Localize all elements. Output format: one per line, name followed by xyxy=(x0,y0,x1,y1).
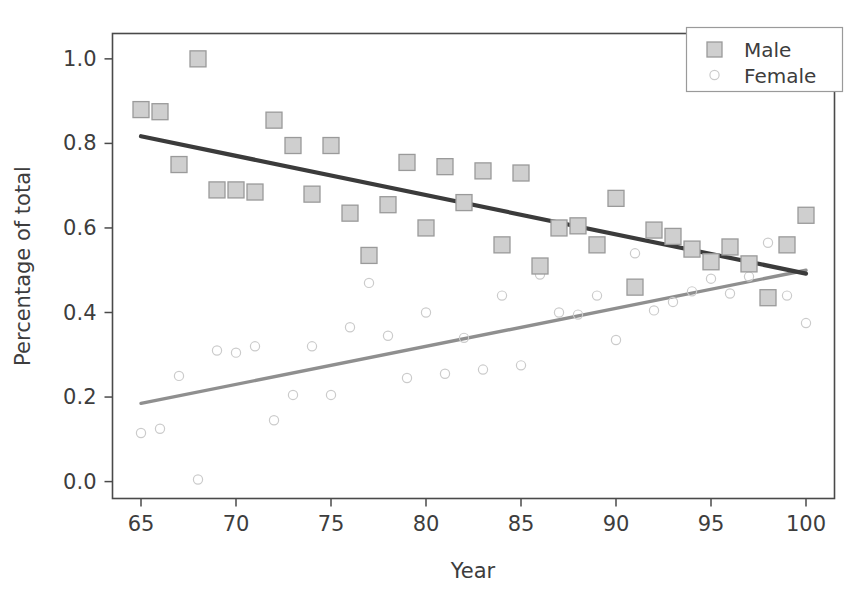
y-tick-label: 0.2 xyxy=(63,385,96,409)
scatter-plot: 65707580859095100 0.00.20.40.60.81.0 Yea… xyxy=(0,0,863,608)
data-point-female xyxy=(155,424,164,433)
data-point-female xyxy=(478,365,487,374)
data-point-female xyxy=(136,428,145,437)
data-point-male xyxy=(133,102,149,118)
data-point-female xyxy=(706,274,715,283)
trendline-male xyxy=(141,136,806,273)
data-point-female xyxy=(744,272,753,281)
data-point-male xyxy=(665,228,681,244)
data-point-male xyxy=(380,197,396,213)
y-axis-title: Percentage of total xyxy=(11,166,35,366)
plot-frame xyxy=(113,34,835,499)
data-point-male xyxy=(266,112,282,128)
data-point-female xyxy=(364,278,373,287)
data-point-female xyxy=(212,346,221,355)
data-point-male xyxy=(513,165,529,181)
data-point-female xyxy=(231,348,240,357)
data-point-female xyxy=(649,306,658,315)
data-point-female xyxy=(345,323,354,332)
x-tick-label: 95 xyxy=(698,512,725,536)
x-tick-label: 90 xyxy=(603,512,630,536)
data-point-male xyxy=(323,138,339,154)
data-point-male xyxy=(418,220,434,236)
data-point-male xyxy=(570,218,586,234)
data-point-male xyxy=(532,258,548,274)
x-tick-label: 70 xyxy=(223,512,250,536)
data-point-female xyxy=(497,291,506,300)
data-point-female xyxy=(402,373,411,382)
data-point-female xyxy=(383,331,392,340)
data-point-female xyxy=(193,475,202,484)
data-point-male xyxy=(285,138,301,154)
x-tick-label: 65 xyxy=(128,512,155,536)
legend-label-female: Female xyxy=(744,64,816,88)
data-point-male xyxy=(228,182,244,198)
data-point-female xyxy=(440,369,449,378)
legend-marker-male xyxy=(707,42,722,57)
data-point-female xyxy=(630,249,639,258)
data-point-male xyxy=(703,254,719,270)
data-point-male xyxy=(589,237,605,253)
data-point-male xyxy=(646,222,662,238)
data-point-male xyxy=(152,104,168,120)
data-point-female xyxy=(592,291,601,300)
data-point-female xyxy=(725,289,734,298)
data-point-female xyxy=(421,308,430,317)
data-point-male xyxy=(627,279,643,295)
data-point-female xyxy=(763,238,772,247)
data-point-female xyxy=(668,297,677,306)
data-point-female xyxy=(554,308,563,317)
x-axis-title: Year xyxy=(450,559,496,583)
data-point-male xyxy=(456,195,472,211)
data-point-male xyxy=(551,220,567,236)
y-tick-label: 0.4 xyxy=(63,301,96,325)
y-tick-label: 0.0 xyxy=(63,470,96,494)
data-point-male xyxy=(798,207,814,223)
y-axis-ticks: 0.00.20.40.60.81.0 xyxy=(63,47,112,494)
data-point-male xyxy=(437,159,453,175)
data-point-female xyxy=(288,390,297,399)
chart-figure: 65707580859095100 0.00.20.40.60.81.0 Yea… xyxy=(0,0,863,608)
data-point-female xyxy=(269,416,278,425)
x-tick-label: 100 xyxy=(786,512,826,536)
data-point-male xyxy=(190,51,206,67)
x-tick-label: 80 xyxy=(413,512,440,536)
data-point-male xyxy=(171,157,187,173)
data-point-female xyxy=(307,342,316,351)
x-tick-label: 85 xyxy=(508,512,535,536)
data-point-male xyxy=(741,256,757,272)
legend-label-male: Male xyxy=(744,38,791,62)
female-data-points xyxy=(136,238,810,484)
data-point-female xyxy=(801,318,810,327)
y-tick-label: 1.0 xyxy=(63,47,96,71)
data-point-female xyxy=(174,371,183,380)
data-point-male xyxy=(608,190,624,206)
data-point-male xyxy=(342,205,358,221)
data-point-female xyxy=(516,361,525,370)
y-tick-label: 0.6 xyxy=(63,216,96,240)
data-point-male xyxy=(247,184,263,200)
data-point-male xyxy=(361,247,377,263)
data-point-male xyxy=(779,237,795,253)
data-point-male xyxy=(684,241,700,257)
data-point-male xyxy=(760,290,776,306)
data-point-female xyxy=(250,342,259,351)
x-tick-label: 75 xyxy=(318,512,345,536)
trendline-female xyxy=(141,270,806,403)
data-point-female xyxy=(326,390,335,399)
data-point-male xyxy=(722,239,738,255)
data-point-female xyxy=(782,291,791,300)
data-point-male xyxy=(304,186,320,202)
data-point-male xyxy=(399,154,415,170)
data-point-male xyxy=(494,237,510,253)
data-point-male xyxy=(475,163,491,179)
data-point-male xyxy=(209,182,225,198)
data-point-female xyxy=(611,335,620,344)
y-tick-label: 0.8 xyxy=(63,131,96,155)
legend: Male Female xyxy=(687,28,843,92)
x-axis-ticks: 65707580859095100 xyxy=(128,499,826,536)
